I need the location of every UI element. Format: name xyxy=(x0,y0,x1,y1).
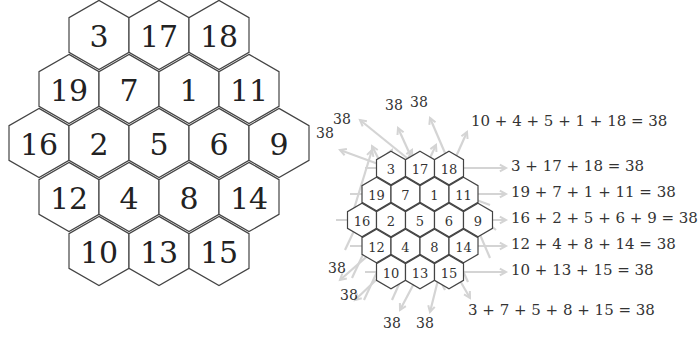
cell-number: 3 xyxy=(89,19,108,54)
cell-number: 15 xyxy=(441,266,458,281)
equation-row-5: 10 + 13 + 15 = 38 xyxy=(511,261,654,279)
cell-number: 6 xyxy=(209,127,228,162)
cell-number: 11 xyxy=(230,73,268,108)
cell-number: 7 xyxy=(401,188,409,203)
cell-number: 5 xyxy=(149,127,168,162)
cell-number: 12 xyxy=(368,240,385,255)
sum-label: 38 xyxy=(316,125,334,141)
sum-label: 38 xyxy=(328,260,346,276)
cell-number: 13 xyxy=(140,235,178,270)
cell-number: 15 xyxy=(200,235,238,270)
cell-number: 4 xyxy=(119,181,138,216)
cell-number: 2 xyxy=(387,214,395,229)
cell-number: 10 xyxy=(383,266,400,281)
equation-row-3: 16 + 2 + 5 + 6 + 9 = 38 xyxy=(511,209,698,227)
cell-number: 18 xyxy=(441,162,458,177)
large-magic-hexagon: 31718197111162569124814101315 xyxy=(9,0,309,285)
equation-diagonal-down: 3 + 7 + 5 + 8 + 15 = 38 xyxy=(468,301,655,319)
cell-number: 17 xyxy=(140,19,178,54)
cell-number: 5 xyxy=(416,214,424,229)
cell-number: 16 xyxy=(20,127,58,162)
equation-row-2: 19 + 7 + 1 + 11 = 38 xyxy=(511,183,676,201)
sum-label: 38 xyxy=(416,315,434,331)
small-magic-hexagon: 31718197111162569124814101315 xyxy=(348,151,493,288)
cell-number: 18 xyxy=(200,19,238,54)
cell-number: 9 xyxy=(269,127,288,162)
cell-number: 10 xyxy=(80,235,118,270)
equation-diagonal-up: 10 + 4 + 5 + 1 + 18 = 38 xyxy=(471,112,667,130)
cell-number: 19 xyxy=(50,73,88,108)
cell-number: 14 xyxy=(230,181,268,216)
cell-number: 8 xyxy=(430,240,438,255)
cell-number: 9 xyxy=(474,214,482,229)
cell-number: 8 xyxy=(179,181,198,216)
cell-number: 12 xyxy=(50,181,88,216)
cell-number: 1 xyxy=(430,188,438,203)
cell-number: 7 xyxy=(119,73,138,108)
sum-label: 38 xyxy=(340,287,358,303)
cell-number: 4 xyxy=(401,240,409,255)
equation-row-4: 12 + 4 + 8 + 14 = 38 xyxy=(511,235,676,253)
cell-number: 16 xyxy=(354,214,371,229)
equation-row-1: 3 + 17 + 18 = 38 xyxy=(511,157,644,175)
cell-number: 11 xyxy=(455,188,472,203)
cell-number: 19 xyxy=(368,188,385,203)
cell-number: 13 xyxy=(412,266,429,281)
cell-number: 2 xyxy=(89,127,108,162)
cell-number: 14 xyxy=(455,240,472,255)
sum-label: 38 xyxy=(383,315,401,331)
sum-label: 38 xyxy=(410,94,428,110)
cell-number: 1 xyxy=(179,73,198,108)
sum-label: 38 xyxy=(385,97,403,113)
cell-number: 3 xyxy=(387,162,395,177)
cell-number: 17 xyxy=(412,162,429,177)
sum-label: 38 xyxy=(333,111,351,127)
cell-number: 6 xyxy=(445,214,453,229)
